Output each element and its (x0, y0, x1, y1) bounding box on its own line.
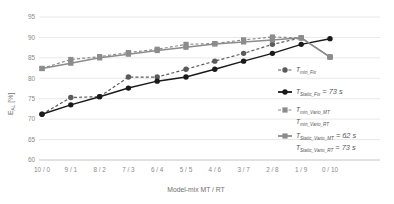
data-point-marker (299, 42, 304, 47)
data-point-marker (39, 66, 44, 71)
data-point-marker (270, 37, 275, 42)
data-point-marker (241, 51, 246, 56)
x-axis-title: Model-mix MT / RT (167, 186, 225, 193)
data-point-marker (270, 42, 275, 47)
x-tick-label: 9 / 1 (65, 166, 78, 173)
data-point-marker (212, 67, 217, 72)
data-point-marker (241, 39, 246, 44)
x-tick-label: 4 / 6 (209, 166, 222, 173)
y-tick-label: 70 (28, 115, 36, 122)
data-point-marker (327, 54, 332, 59)
data-point-marker (183, 45, 188, 50)
data-point-marker (183, 67, 188, 72)
data-point-marker (126, 74, 131, 79)
x-tick-label: 0 / 10 (322, 166, 338, 173)
x-tick-label: 7 / 3 (122, 166, 135, 173)
y-tick-label: 80 (28, 75, 36, 82)
data-point-marker (299, 35, 304, 40)
x-tick-label: 3 / 7 (237, 166, 250, 173)
x-tick-label: 2 / 8 (266, 166, 279, 173)
data-point-marker (97, 55, 102, 60)
data-point-marker (241, 58, 246, 63)
data-point-marker (126, 52, 131, 57)
y-tick-label: 90 (28, 34, 36, 41)
x-tick-label: 5 / 5 (180, 166, 193, 173)
chart-container: 6065707580859095 10 / 09 / 18 / 27 / 36 … (0, 0, 394, 204)
x-tick-label: 10 / 0 (34, 166, 50, 173)
data-point-marker (327, 36, 332, 41)
data-point-marker (68, 61, 73, 66)
x-tick-label: 6 / 4 (151, 166, 164, 173)
x-tick-label: 8 / 2 (93, 166, 106, 173)
data-point-marker (282, 133, 287, 138)
chart-background (0, 0, 394, 204)
y-tick-label: 75 (28, 95, 36, 102)
data-point-marker (282, 89, 287, 94)
data-point-marker (282, 107, 287, 112)
data-point-marker (282, 67, 287, 72)
data-point-marker (126, 85, 131, 90)
data-point-marker (212, 58, 217, 63)
x-tick-label: 1 / 9 (295, 166, 308, 173)
y-tick-label: 65 (28, 136, 36, 143)
data-point-marker (155, 78, 160, 83)
data-point-marker (183, 74, 188, 79)
data-point-marker (68, 95, 73, 100)
y-tick-label: 60 (28, 156, 36, 163)
data-point-marker (270, 51, 275, 56)
data-point-marker (212, 41, 217, 46)
y-tick-label: 85 (28, 54, 36, 61)
y-tick-label: 95 (28, 13, 36, 20)
data-point-marker (39, 112, 44, 117)
data-point-marker (68, 102, 73, 107)
line-chart: 6065707580859095 10 / 09 / 18 / 27 / 36 … (0, 0, 394, 204)
data-point-marker (155, 48, 160, 53)
data-point-marker (97, 94, 102, 99)
